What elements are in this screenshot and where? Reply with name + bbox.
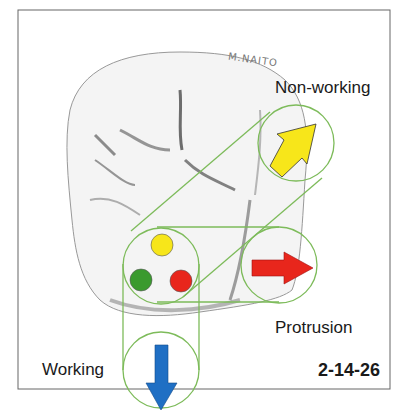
label-non-working: Non-working bbox=[275, 78, 370, 98]
green-dot bbox=[130, 269, 152, 291]
figure-number: 2-14-26 bbox=[318, 360, 380, 381]
yellow-dot bbox=[151, 234, 173, 256]
label-protrusion: Protrusion bbox=[275, 318, 352, 338]
diagram-canvas bbox=[0, 0, 401, 416]
label-working: Working bbox=[42, 360, 104, 380]
red-dot bbox=[170, 270, 192, 292]
